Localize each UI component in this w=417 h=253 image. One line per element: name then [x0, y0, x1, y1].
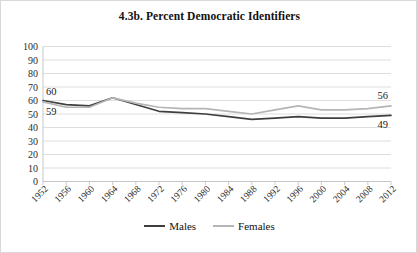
x-tick-1972: 1972 — [145, 184, 166, 205]
x-tick-1996: 1996 — [285, 184, 306, 205]
x-tick-1988: 1988 — [238, 184, 259, 205]
x-tick-1976: 1976 — [169, 184, 190, 205]
chart-container: 4.3b. Percent Democratic Identifiers 010… — [0, 0, 417, 253]
x-tick-1956: 1956 — [53, 184, 74, 205]
legend-label-females: Females — [238, 220, 275, 232]
legend-entry-males: Males — [144, 220, 196, 232]
x-tick-2000: 2000 — [308, 184, 329, 205]
y-tick-30: 30 — [28, 136, 38, 147]
point-label-males-2012: 49 — [378, 119, 389, 130]
point-label-females-1952: 59 — [46, 106, 57, 117]
chart-plot-area: 0102030405060708090100 19521956196019641… — [1, 1, 417, 253]
x-tick-1992: 1992 — [261, 184, 282, 205]
x-tick-1968: 1968 — [122, 184, 143, 205]
y-tick-90: 90 — [28, 55, 38, 66]
x-tick-2008: 2008 — [354, 184, 375, 205]
legend-swatch-females-icon — [213, 225, 234, 227]
point-label-females-2012: 56 — [378, 90, 389, 101]
data-series — [43, 98, 391, 120]
y-tick-20: 20 — [28, 149, 38, 160]
x-tick-1980: 1980 — [192, 184, 213, 205]
x-tick-1960: 1960 — [76, 184, 97, 205]
legend-swatch-males-icon — [144, 225, 165, 227]
y-tick-50: 50 — [28, 109, 38, 120]
point-label-males-1952: 60 — [46, 86, 57, 97]
x-axis-tick-labels: 1952195619601964196819721976198019841988… — [29, 184, 398, 205]
x-tick-2004: 2004 — [331, 184, 352, 205]
chart-legend: Males Females — [1, 220, 417, 232]
x-tick-1964: 1964 — [99, 184, 120, 205]
x-tick-1984: 1984 — [215, 184, 236, 205]
y-tick-10: 10 — [28, 163, 38, 174]
data-point-labels: 60595649 — [46, 86, 388, 131]
y-tick-100: 100 — [23, 41, 38, 52]
y-tick-70: 70 — [28, 82, 38, 93]
y-axis-tick-labels: 0102030405060708090100 — [23, 41, 38, 187]
y-tick-80: 80 — [28, 68, 38, 79]
legend-label-males: Males — [169, 220, 196, 232]
y-tick-0: 0 — [33, 176, 38, 187]
y-tick-60: 60 — [28, 95, 38, 106]
legend-entry-females: Females — [213, 220, 275, 232]
y-tick-40: 40 — [28, 122, 38, 133]
series-line-males — [43, 98, 391, 120]
x-tick-2012: 2012 — [377, 184, 398, 205]
